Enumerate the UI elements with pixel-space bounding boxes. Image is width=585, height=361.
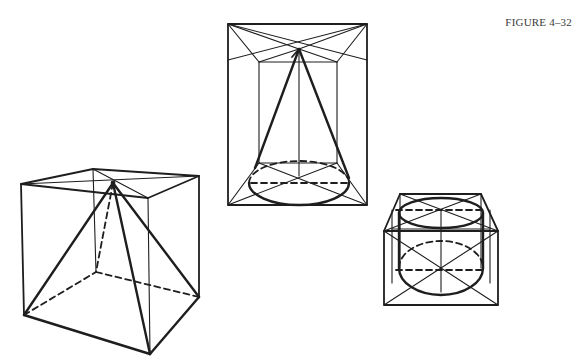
cylinder-in-box-shape bbox=[384, 194, 498, 305]
pyramid-in-cube-shape bbox=[21, 169, 199, 354]
figure-canvas bbox=[0, 0, 585, 361]
cone-in-box-shape bbox=[228, 24, 367, 205]
